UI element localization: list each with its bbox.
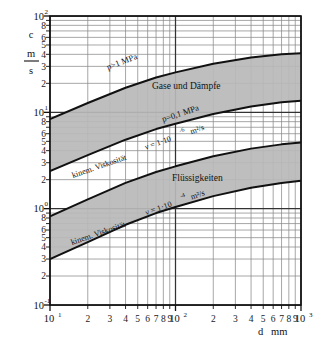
x-tick-label-minor: 2 — [85, 314, 90, 324]
y-tick-label-minor: 2 — [41, 175, 46, 185]
x-tick-label-minor: 8 — [286, 314, 291, 324]
y-tick-label-minor: 4 — [41, 242, 46, 252]
y-tick-label-minor: 8 — [41, 21, 46, 31]
y-tick-label-minor: 2 — [41, 271, 46, 281]
x-tick-label-minor: 5 — [135, 314, 140, 324]
y-tick-label-minor: 8 — [41, 117, 46, 127]
x-tick-label-minor: 7 — [154, 314, 159, 324]
x-tick-label-minor: 3 — [233, 314, 238, 324]
x-tick-label-minor: 2 — [211, 314, 216, 324]
svg-text:0: 0 — [45, 200, 49, 208]
y-tick-label-minor: 8 — [41, 213, 46, 223]
svg-text:2: 2 — [184, 311, 188, 319]
x-tick-label-minor: 6 — [271, 314, 276, 324]
x-tick-label-minor: 8 — [161, 314, 166, 324]
x-axis-unit: mm — [271, 326, 287, 337]
y-axis-unit-numerator: m — [27, 48, 35, 59]
svg-text:-1: -1 — [45, 297, 51, 305]
y-tick-label-minor: 3 — [41, 158, 46, 168]
x-tick-label-minor: 4 — [249, 314, 254, 324]
x-tick-label-minor: 9 — [167, 314, 172, 324]
x-axis-title: d mm — [258, 326, 287, 337]
svg-text:1: 1 — [45, 104, 49, 112]
y-tick-label-minor: 3 — [41, 62, 46, 72]
y-tick-label-minor: 4 — [41, 146, 46, 156]
svg-text:10: 10 — [34, 300, 45, 311]
x-tick-label-minor: 9 — [293, 314, 298, 324]
log-log-chart: 10210110010-1865432865432865432 10110210… — [0, 0, 317, 349]
chart-figure: 10210110010-1865432865432865432 10110210… — [0, 0, 317, 349]
svg-text:2: 2 — [45, 8, 49, 16]
x-tick-label-minor: 6 — [145, 314, 150, 324]
y-axis-symbol: c — [29, 29, 34, 40]
x-tick-label-minor: 3 — [108, 314, 113, 324]
y-tick-label-minor: 2 — [41, 79, 46, 89]
x-tick-label-minor: 5 — [261, 314, 266, 324]
svg-text:1: 1 — [58, 311, 62, 319]
svg-text:10: 10 — [44, 313, 55, 324]
y-tick-label-minor: 3 — [41, 254, 46, 264]
band-label-gases: Gase und Dämpfe — [152, 81, 221, 91]
x-axis-symbol: d — [258, 326, 264, 337]
svg-text:3: 3 — [309, 311, 313, 319]
x-tick-label-minor: 7 — [279, 314, 284, 324]
y-axis-unit-denominator: s — [29, 65, 33, 76]
y-tick-label-minor: 4 — [41, 50, 46, 60]
band-label-liquids: Flüssigkeiten — [172, 173, 223, 183]
x-tick-label-minor: 4 — [123, 314, 128, 324]
